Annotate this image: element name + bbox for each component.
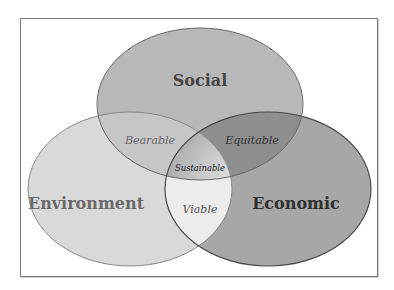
label-social: Social [173,71,228,90]
label-environment: Environment [28,194,145,213]
label-bearable: Bearable [124,134,176,147]
venn-diagram: Social Environment Economic Bearable Equ… [0,0,394,290]
label-viable: Viable [183,203,218,216]
label-equitable: Equitable [224,134,279,147]
label-sustainable: Sustainable [175,163,225,173]
label-economic: Economic [252,194,340,213]
